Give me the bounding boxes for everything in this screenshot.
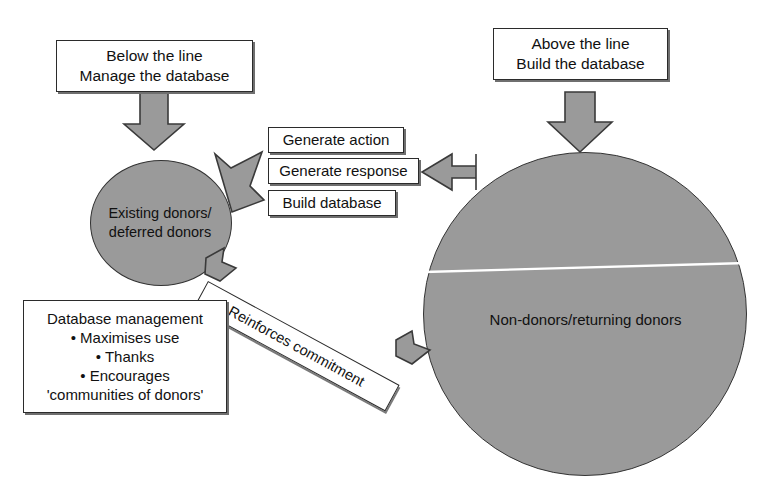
arrow-left-to-actions (422, 154, 476, 190)
arrowhead-reinforces-left (205, 248, 236, 281)
box-database-management[interactable]: Database management • Maximises use • Th… (23, 300, 227, 413)
arrowhead-reinforces-right (396, 331, 430, 364)
box-below-the-line[interactable]: Below the line Manage the database (56, 40, 253, 92)
box-above-the-line[interactable]: Above the line Build the database (493, 28, 668, 80)
arrow-diagonal-to-existing-donors (215, 152, 264, 212)
diagram-canvas: Non-donors/returning donors Existing don… (0, 0, 770, 497)
box-generate-action[interactable]: Generate action (268, 127, 404, 153)
arrow-down-above-line (548, 92, 612, 152)
box-build-database[interactable]: Build database (268, 190, 396, 216)
arrow-down-below-line (124, 92, 184, 150)
box-generate-response[interactable]: Generate response (268, 158, 419, 184)
